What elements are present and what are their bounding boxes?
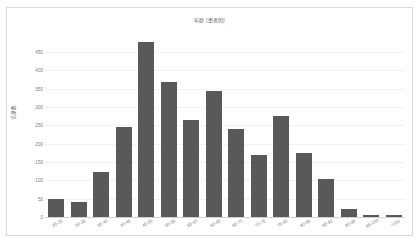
y-tick-label: 250 xyxy=(21,123,43,128)
y-tick-label: 450 xyxy=(21,50,43,55)
bar-slot[interactable] xyxy=(315,39,338,217)
y-tick-label: 50 xyxy=(21,196,43,201)
bar[interactable] xyxy=(386,215,402,217)
x-tick-label: 80-85 xyxy=(299,218,311,228)
x-tick-label: 95-100 xyxy=(365,218,379,229)
bar[interactable] xyxy=(93,172,109,217)
x-tick-slot: 80-85 xyxy=(293,218,316,240)
bar[interactable] xyxy=(318,179,334,218)
bar[interactable] xyxy=(116,127,132,217)
bar[interactable] xyxy=(206,91,222,217)
x-tick-slot: 25-30 xyxy=(45,218,68,240)
chart-frame: 年龄 (患者的) 记录数 450400350300250200150100500… xyxy=(6,7,413,236)
bar-slot[interactable] xyxy=(113,39,136,217)
y-tick-label: 200 xyxy=(21,141,43,146)
x-tick-label: 35-40 xyxy=(96,218,108,228)
x-tick-label: 85-90 xyxy=(321,218,333,228)
y-axis-tick-labels: 450400350300250200150100500 xyxy=(21,39,43,217)
y-tick-label: 350 xyxy=(21,86,43,91)
bar[interactable] xyxy=(296,153,312,217)
x-axis-tick-labels: 25-3030-3535-4040-4545-5050-5555-6060-65… xyxy=(45,218,405,240)
bar[interactable] xyxy=(341,209,357,217)
x-tick-label: 25-30 xyxy=(51,218,63,228)
x-tick-label: 55-60 xyxy=(186,218,198,228)
bar-slot[interactable] xyxy=(338,39,361,217)
chart-title: 年龄 (患者的) xyxy=(7,17,412,24)
x-tick-label: 60-65 xyxy=(209,218,221,228)
x-tick-label: 90-95 xyxy=(344,218,356,228)
plot-area xyxy=(45,39,405,217)
bar-slot[interactable] xyxy=(293,39,316,217)
bar-slot[interactable] xyxy=(360,39,383,217)
y-tick-label: 400 xyxy=(21,68,43,73)
x-tick-slot: 30-35 xyxy=(68,218,91,240)
x-tick-slot: 85-90 xyxy=(315,218,338,240)
bar-slot[interactable] xyxy=(45,39,68,217)
x-tick-label: 70-75 xyxy=(254,218,266,228)
bar[interactable] xyxy=(251,155,267,217)
x-tick-slot: 60-65 xyxy=(203,218,226,240)
bar[interactable] xyxy=(48,199,64,217)
bar-slot[interactable] xyxy=(90,39,113,217)
bar-slot[interactable] xyxy=(270,39,293,217)
bar[interactable] xyxy=(138,42,154,217)
x-tick-slot: 40-45 xyxy=(113,218,136,240)
x-tick-label: 30-35 xyxy=(74,218,86,228)
bar[interactable] xyxy=(161,82,177,217)
bar-slot[interactable] xyxy=(225,39,248,217)
x-tick-label: 40-45 xyxy=(119,218,131,228)
x-tick-label: 65-70 xyxy=(231,218,243,228)
x-tick-label: 50-55 xyxy=(164,218,176,228)
bar-slot[interactable] xyxy=(203,39,226,217)
bar[interactable] xyxy=(228,129,244,217)
x-tick-slot: 55-60 xyxy=(180,218,203,240)
bar[interactable] xyxy=(273,116,289,217)
x-tick-slot: 90-95 xyxy=(338,218,361,240)
bar[interactable] xyxy=(183,120,199,217)
bar-slot[interactable] xyxy=(248,39,271,217)
x-tick-slot: 45-50 xyxy=(135,218,158,240)
x-tick-slot: 75-80 xyxy=(270,218,293,240)
bar[interactable] xyxy=(71,202,87,217)
x-tick-slot: 65-70 xyxy=(225,218,248,240)
x-tick-slot: >100 xyxy=(383,218,406,240)
bar-slot[interactable] xyxy=(383,39,406,217)
y-tick-label: 300 xyxy=(21,105,43,110)
x-tick-label: 45-50 xyxy=(141,218,153,228)
bar-series xyxy=(45,39,405,217)
bar-slot[interactable] xyxy=(180,39,203,217)
x-tick-slot: 35-40 xyxy=(90,218,113,240)
x-tick-label: >100 xyxy=(389,219,400,228)
x-tick-slot: 95-100 xyxy=(360,218,383,240)
bar-slot[interactable] xyxy=(68,39,91,217)
y-tick-label: 0 xyxy=(21,215,43,220)
y-tick-label: 150 xyxy=(21,160,43,165)
x-tick-label: 75-80 xyxy=(276,218,288,228)
x-tick-slot: 50-55 xyxy=(158,218,181,240)
x-tick-slot: 70-75 xyxy=(248,218,271,240)
y-axis-title: 记录数 xyxy=(11,105,17,120)
bar-slot[interactable] xyxy=(158,39,181,217)
bar-slot[interactable] xyxy=(135,39,158,217)
y-tick-label: 100 xyxy=(21,178,43,183)
